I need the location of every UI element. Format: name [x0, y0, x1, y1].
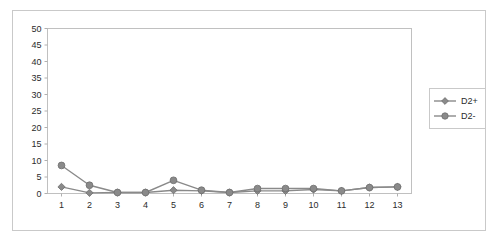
y-tick-label: 5: [36, 172, 41, 182]
x-tick-label: 9: [283, 200, 288, 210]
x-tick-label: 10: [308, 200, 318, 210]
x-tick-label: 4: [143, 200, 148, 210]
x-tick-label: 12: [364, 200, 374, 210]
plot-area: [48, 29, 412, 194]
y-tick-label: 25: [31, 106, 41, 116]
marker-D2--13: [394, 184, 401, 191]
marker-D2--7: [226, 189, 233, 196]
y-tick-label: 15: [31, 139, 41, 149]
x-tick-label: 8: [255, 200, 260, 210]
marker-D2--12: [366, 184, 373, 191]
chart-legend: D2+D2-: [430, 89, 486, 129]
legend-label-D2+: D2+: [461, 96, 478, 106]
x-tick-label: 5: [171, 200, 176, 210]
x-tick-label: 7: [227, 200, 232, 210]
y-tick-label: 0: [36, 189, 41, 199]
y-tick-label: 20: [31, 123, 41, 133]
marker-D2--9: [282, 185, 289, 192]
y-tick-label: 10: [31, 156, 41, 166]
legend-box: [430, 89, 486, 129]
marker-D2--1: [58, 162, 65, 169]
y-tick-label: 40: [31, 57, 41, 67]
y-axis: 05101520253035404550: [31, 24, 47, 199]
marker-D2--8: [254, 185, 261, 192]
marker-D2--4: [142, 189, 149, 196]
y-tick-label: 30: [31, 90, 41, 100]
y-tick-label: 45: [31, 40, 41, 50]
marker-D2--3: [114, 189, 121, 196]
x-tick-label: 3: [115, 200, 120, 210]
marker-D2--10: [310, 185, 317, 192]
y-tick-label: 50: [31, 24, 41, 34]
x-tick-label: 11: [337, 200, 346, 210]
x-tick-label: 2: [87, 200, 92, 210]
marker-D2--5: [170, 177, 177, 184]
marker-D2--11: [338, 187, 345, 194]
marker-D2--2: [86, 182, 93, 189]
legend-marker-D2-: [442, 113, 448, 119]
x-tick-label: 13: [392, 200, 402, 210]
x-tick-label: 6: [199, 200, 204, 210]
legend-label-D2-: D2-: [461, 111, 476, 121]
marker-D2--6: [198, 187, 205, 194]
line-chart: 05101520253035404550 12345678910111213 D…: [0, 0, 499, 241]
x-tick-label: 1: [59, 200, 64, 210]
y-tick-label: 35: [31, 73, 41, 83]
